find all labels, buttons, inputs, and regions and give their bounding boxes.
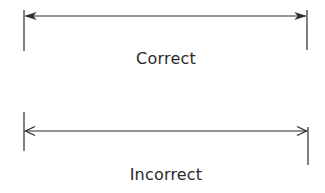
incorrect-example <box>24 112 308 165</box>
correct-label: Correct <box>0 49 325 68</box>
incorrect-label: Incorrect <box>0 165 325 184</box>
correct-example <box>24 10 307 51</box>
